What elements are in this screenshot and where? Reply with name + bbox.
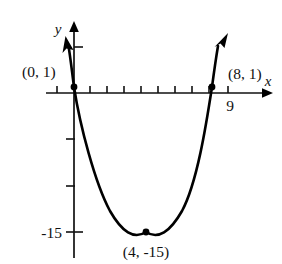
parabola-curve [69, 46, 219, 235]
point-8-1 [209, 84, 216, 91]
label-point-8-1: (8, 1) [228, 65, 262, 83]
x-axis-arrowhead [262, 88, 273, 98]
y-axis-label: y [53, 21, 62, 37]
point-0-1 [71, 84, 78, 91]
x-tick-label-9: 9 [226, 97, 234, 114]
y-tick-label-neg15: -15 [41, 224, 62, 241]
parabola-figure: y x (0, 1) (8, 1) (4, -15) 9 -15 [0, 0, 282, 264]
plotted-points-group [71, 84, 216, 236]
scan-artifact-text [0, 0, 282, 9]
label-point-vertex: (4, -15) [123, 243, 170, 261]
graph-canvas: y x (0, 1) (8, 1) (4, -15) 9 -15 [0, 0, 282, 264]
y-axis-arrowhead [69, 21, 79, 32]
label-point-0-1: (0, 1) [22, 63, 56, 81]
curve-right-arrowhead [215, 33, 229, 48]
y-axis-group [66, 21, 83, 258]
x-axis-group [46, 86, 273, 98]
point-vertex [143, 229, 150, 236]
parabola-curve-group [63, 33, 229, 235]
x-axis-label: x [264, 73, 272, 89]
